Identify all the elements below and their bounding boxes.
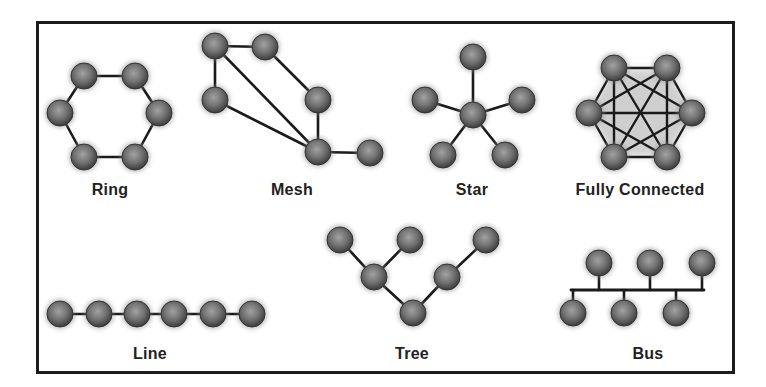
tree-node [471,225,501,255]
fully-connected-node [652,53,682,83]
star-node [458,100,488,130]
mesh-node [250,32,280,62]
bus-node [661,298,691,328]
fully-connected-label: Fully Connected [576,181,705,199]
tree-node [395,225,425,255]
bus-node [584,248,614,278]
line-node [45,299,75,329]
star-node [458,42,488,72]
fully-connected-node [574,98,604,128]
mesh-node [303,137,333,167]
ring-node [45,98,75,128]
fully-connected-node [677,98,707,128]
bus-node [687,248,717,278]
ring-node [120,61,150,91]
ring-node [69,61,99,91]
star-node [490,140,520,170]
line-node [122,299,152,329]
line-node [237,299,267,329]
ring-node [120,142,150,172]
star-node [410,85,440,115]
line-node [84,299,114,329]
bus-node [558,298,588,328]
mesh-node [200,31,230,61]
tree-node [325,225,355,255]
bus-node [609,298,639,328]
ring-label: Ring [92,181,129,199]
fully-connected-node [652,142,682,172]
line-node [159,299,189,329]
ring-node [144,98,174,128]
mesh-node [303,85,333,115]
tree-label: Tree [395,345,429,363]
fully-connected-node [599,142,629,172]
tree-node [359,262,389,292]
bus-label: Bus [632,345,663,363]
network-topologies-diagram: RingMeshStarFully ConnectedLineTreeBus [0,0,766,387]
line-node [198,299,228,329]
line-label: Line [133,345,167,363]
mesh-node [200,85,230,115]
fully-connected-node [599,53,629,83]
ring-node [69,142,99,172]
star-node [507,85,537,115]
mesh-label: Mesh [271,181,313,199]
tree-node [398,298,428,328]
bus-node [635,248,665,278]
mesh-node [355,138,385,168]
star-node [428,140,458,170]
tree-node [432,262,462,292]
mesh-edge [215,100,318,152]
star-label: Star [456,181,488,199]
